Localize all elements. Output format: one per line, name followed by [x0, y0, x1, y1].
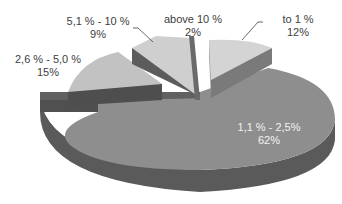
label-name: 5,1 % - 10 %	[67, 15, 130, 28]
label-5-1-to-10: 5,1 % - 10 % 9%	[67, 15, 130, 41]
label-name: 1,1 % - 2,5%	[238, 121, 301, 134]
label-name: above 10 %	[164, 13, 222, 26]
label-pct: 12%	[282, 26, 313, 39]
label-name: 2,6 % - 5,0 %	[15, 53, 81, 66]
label-pct: 15%	[15, 66, 81, 79]
label-pct: 2%	[164, 26, 222, 39]
label-2-6-to-5-0: 2,6 % - 5,0 % 15%	[15, 53, 81, 79]
label-1-1-to-2-5: 1,1 % - 2,5% 62%	[238, 121, 301, 147]
label-name: to 1 %	[282, 13, 313, 26]
label-pct: 62%	[238, 134, 301, 147]
label-above-10: above 10 % 2%	[164, 13, 222, 39]
label-to-1: to 1 % 12%	[282, 13, 313, 39]
label-pct: 9%	[67, 28, 130, 41]
